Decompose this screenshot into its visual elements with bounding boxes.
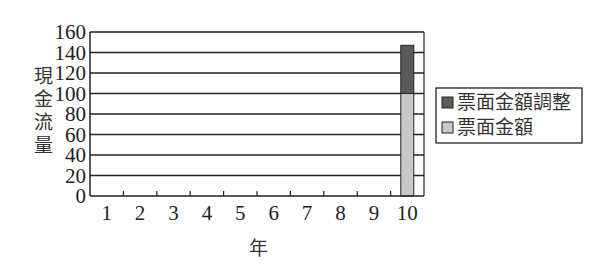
y-tick-label: 20	[65, 164, 86, 188]
svg-text:量: 量	[34, 134, 53, 156]
svg-text:現: 現	[34, 65, 53, 87]
x-axis-label: 年	[249, 237, 268, 259]
y-tick-label: 60	[65, 123, 86, 147]
x-tick-label: 5	[235, 201, 246, 225]
y-tick-label: 120	[55, 61, 87, 85]
y-tick-label: 140	[55, 41, 87, 65]
x-tick-label: 6	[268, 201, 279, 225]
y-tick-label: 160	[55, 20, 87, 44]
x-tick-label: 10	[397, 201, 418, 225]
bar-segment	[401, 45, 414, 93]
y-axis-label: 現金流量	[34, 65, 53, 156]
x-tick-label: 8	[335, 201, 346, 225]
y-tick-label: 40	[65, 143, 86, 167]
x-tick-label: 7	[302, 201, 313, 225]
x-tick-label: 3	[168, 201, 179, 225]
gridlines	[90, 32, 424, 176]
x-tick-label: 9	[369, 201, 380, 225]
x-tick-label: 2	[135, 201, 146, 225]
legend-label: 票面金額調整	[457, 91, 571, 113]
cash-flow-chart: 020406080100120140160 12345678910 現金流量 年…	[0, 0, 606, 275]
svg-text:流: 流	[34, 111, 53, 133]
legend-swatch	[442, 97, 453, 108]
bars	[401, 45, 414, 196]
legend: 票面金額調整票面金額	[436, 88, 582, 143]
legend-label: 票面金額	[457, 116, 533, 138]
x-tick-label: 1	[101, 201, 112, 225]
y-tick-label: 100	[55, 82, 87, 106]
y-tick-label: 0	[76, 184, 87, 208]
svg-text:金: 金	[34, 88, 53, 110]
legend-swatch	[442, 122, 453, 133]
y-tick-label: 80	[65, 102, 86, 126]
bar-segment	[401, 94, 414, 197]
y-axis-ticks: 020406080100120140160	[55, 20, 87, 208]
x-tick-label: 4	[202, 201, 213, 225]
